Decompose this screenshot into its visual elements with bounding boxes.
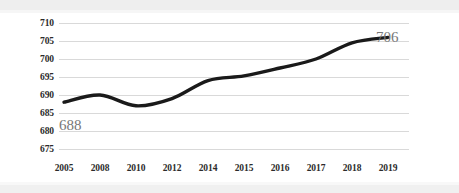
bottom-edge-band [0, 185, 459, 193]
series-path [64, 37, 388, 105]
end-value-annotation: 706 [376, 29, 399, 45]
plot-area: 710 705 700 695 690 685 680 675 2005 200… [0, 13, 459, 185]
line-chart-card: 710 705 700 695 690 685 680 675 2005 200… [0, 0, 459, 193]
start-value-annotation: 688 [59, 117, 82, 133]
top-edge-band [0, 0, 459, 10]
